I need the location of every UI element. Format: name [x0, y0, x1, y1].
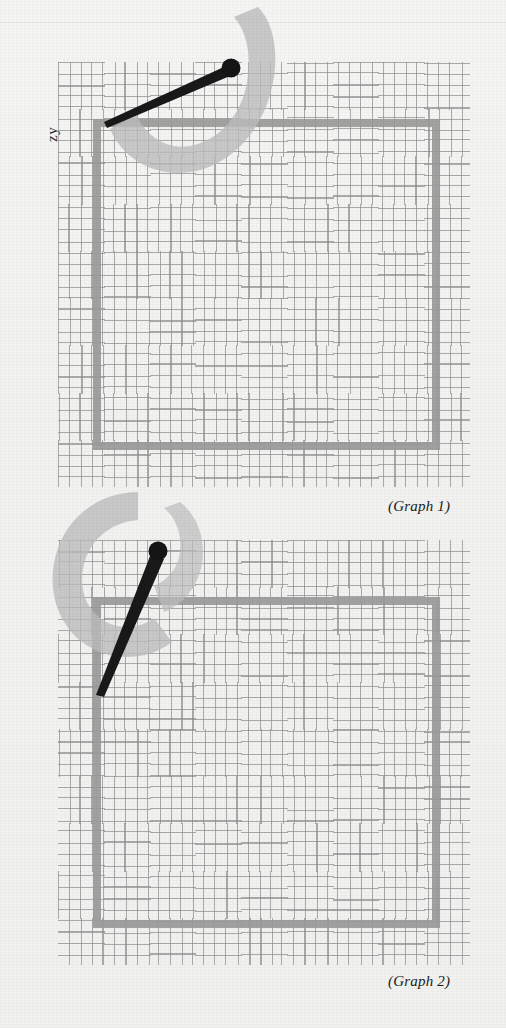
- graph-caption: (Graph 1): [388, 498, 450, 515]
- graph-caption: (Graph 2): [388, 973, 450, 990]
- y-axis-label: zy: [44, 127, 61, 142]
- page-seam-line: [0, 22, 506, 23]
- square-outline-shape: [93, 119, 440, 450]
- page-canvas: (Graph 1) (Graph 2) zy: [0, 0, 506, 1028]
- square-outline-shape: [93, 597, 440, 928]
